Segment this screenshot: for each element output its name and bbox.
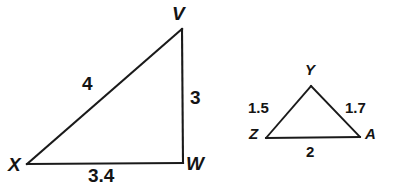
side-length-zy: 1.5 xyxy=(248,100,269,115)
side-length-xw: 3.4 xyxy=(88,166,114,185)
side-length-xv: 4 xyxy=(82,74,93,93)
triangle-vxw-shape xyxy=(27,29,183,164)
edge-zy xyxy=(266,86,311,138)
edge-xv xyxy=(27,29,182,164)
edge-vw xyxy=(182,29,183,163)
edge-za xyxy=(266,137,360,138)
vertex-label-x: X xyxy=(8,155,21,174)
edge-xw xyxy=(27,163,183,164)
diagram-canvas: V X W 4 3 3.4 Y Z A 1.5 1.7 2 xyxy=(0,0,407,191)
side-length-vw: 3 xyxy=(190,88,201,107)
vertex-label-z: Z xyxy=(249,126,258,141)
side-length-za: 2 xyxy=(306,144,314,159)
vertex-label-y: Y xyxy=(305,62,315,77)
vertex-label-w: W xyxy=(186,154,204,173)
vertex-label-v: V xyxy=(172,4,185,23)
vertex-label-a: A xyxy=(365,126,376,141)
side-length-ya: 1.7 xyxy=(345,100,366,115)
